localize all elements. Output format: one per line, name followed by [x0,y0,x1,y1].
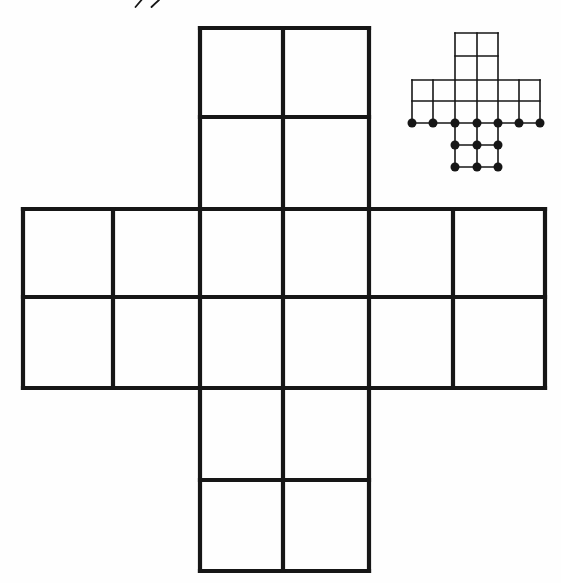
lattice-dot [494,163,503,172]
lattice-dot [451,119,460,128]
lattice-dot [451,141,460,150]
lattice-dot [494,119,503,128]
lattice-dot [494,141,503,150]
lattice-dot [536,119,545,128]
lattice-dot [429,119,438,128]
lattice-dot [473,163,482,172]
lattice-dot [473,141,482,150]
lattice-dot [473,119,482,128]
lattice-dot [515,119,524,128]
lattice-dot [451,163,460,172]
diagram-page [0,0,561,583]
lattice-dot [408,119,417,128]
cross-net-diagram [0,0,561,583]
